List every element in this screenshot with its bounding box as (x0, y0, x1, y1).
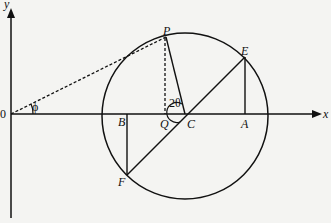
point-b-label: B (118, 115, 126, 129)
point-f-label: F (117, 175, 126, 189)
y-axis-label: y (3, 0, 10, 11)
origin-label: 0 (0, 107, 6, 121)
line-fe (127, 57, 245, 175)
point-c-label: C (187, 117, 196, 131)
angle-2theta-label: 2θ (169, 96, 181, 110)
x-axis-label: x (322, 107, 329, 121)
x-axis-arrow-icon (312, 110, 322, 118)
point-p-label: P (162, 24, 171, 38)
point-a-label: A (240, 117, 249, 131)
point-q-label: Q (160, 117, 169, 131)
angle-phi-label: ϕ (32, 100, 38, 114)
geometry-diagram: y x 0 ϕ P E 2θ Q C B A F (0, 0, 331, 223)
point-e-label: E (240, 44, 249, 58)
